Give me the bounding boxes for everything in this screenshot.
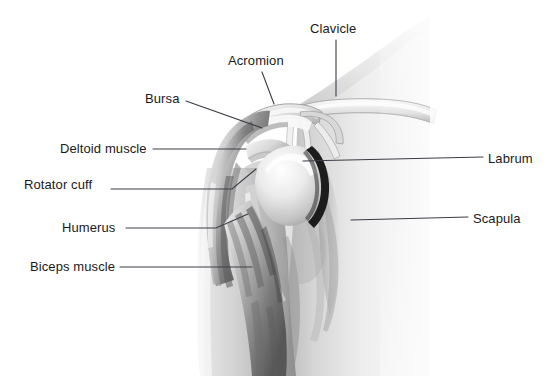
shoulder-anatomy-diagram: BursaDeltoid muscleRotator cuffHumerusBi… [0, 0, 552, 376]
label-acromion: Acromion [228, 54, 284, 67]
leader-line-acromion [262, 72, 274, 104]
label-biceps-muscle: Biceps muscle [30, 260, 115, 273]
label-rotator-cuff: Rotator cuff [24, 178, 92, 191]
label-deltoid-muscle: Deltoid muscle [60, 142, 147, 155]
label-bursa: Bursa [145, 92, 179, 105]
label-clavicle: Clavicle [310, 22, 356, 35]
label-labrum: Labrum [488, 152, 533, 165]
label-scapula: Scapula [473, 212, 521, 225]
label-humerus: Humerus [62, 221, 115, 234]
